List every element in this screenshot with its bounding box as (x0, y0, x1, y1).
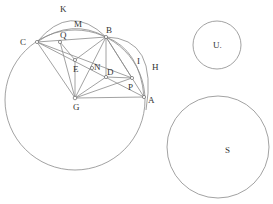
label-c: C (20, 37, 26, 47)
point-e (73, 58, 76, 61)
label-a: A (148, 95, 155, 105)
point-a (142, 95, 145, 98)
point-q (58, 40, 61, 43)
point-c (35, 40, 38, 43)
label-h: H (152, 62, 159, 72)
circle-s (167, 96, 269, 198)
label-s: S (225, 145, 230, 155)
point-g (73, 96, 77, 100)
label-u: U. (213, 40, 222, 50)
arc-ckb (37, 21, 106, 42)
label-n: N (94, 62, 101, 72)
label-m: M (74, 19, 82, 29)
label-b: B (106, 25, 112, 35)
label-k: K (60, 4, 67, 14)
label-i: I (137, 56, 140, 66)
geometry-diagram: K M B C Q E N D I H P G A U. S (0, 0, 273, 204)
label-q: Q (60, 30, 67, 40)
label-d: D (107, 67, 114, 77)
point-p (130, 76, 133, 79)
label-p: P (128, 82, 133, 92)
label-e: E (73, 64, 79, 74)
point-b (104, 35, 107, 38)
label-g: G (73, 102, 80, 112)
